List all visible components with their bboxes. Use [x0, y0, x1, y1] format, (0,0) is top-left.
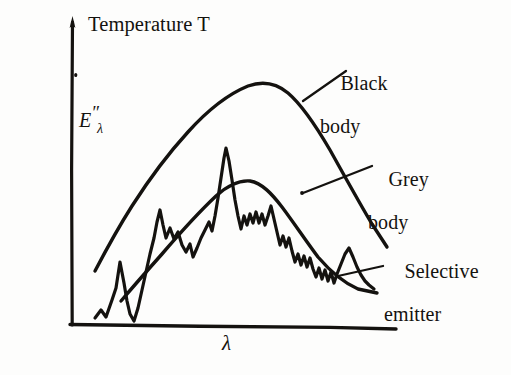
- x-axis-label: λ: [222, 332, 231, 354]
- y-axis-label-symbol: E: [79, 110, 91, 131]
- overdot-icon: [74, 73, 77, 76]
- selective-emitter-annotation-line2: emitter: [384, 304, 479, 325]
- figure-title: Temperature T: [88, 14, 210, 36]
- y-axis-label-subscript: λ: [97, 121, 103, 136]
- y-axis-label-stack: E″λ: [48, 83, 103, 158]
- black-body-annotation-line2: body: [320, 116, 388, 137]
- black-body-annotation-line1: Black: [340, 72, 387, 94]
- radiation-spectrum-figure: Temperature T E″λ Black body Grey body S…: [0, 0, 511, 375]
- y-axis-label: E″λ: [28, 62, 103, 179]
- x-axis-line: [70, 325, 396, 330]
- grey-body-annotation-line1: Grey: [388, 168, 428, 190]
- grey-body-curve: [121, 181, 377, 301]
- selective-emitter-annotation-line1: Selective: [404, 260, 478, 282]
- selective-emitter-annotation: Selective emitter: [384, 240, 479, 367]
- grey-body-annotation-line2: body: [368, 212, 429, 233]
